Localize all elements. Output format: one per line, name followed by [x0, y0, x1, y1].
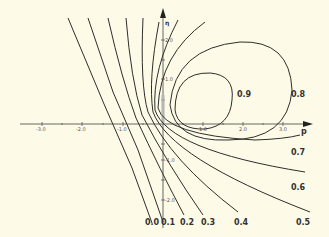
x-tick-label: -1.0 [117, 126, 127, 132]
contour-label: 0.8 [291, 90, 306, 99]
contour-0.4 [142, 18, 238, 212]
x-axis-label: p [301, 127, 307, 136]
contour-0.5 [151, 22, 310, 212]
contour-curves [68, 18, 310, 223]
contour-label: 0.5 [296, 218, 311, 227]
axis-shading [161, 95, 165, 124]
contour-0.9 [175, 73, 232, 129]
contour-label: 0.7 [291, 148, 305, 157]
contour-label: 0.4 [234, 218, 249, 227]
contour-label: 0.3 [201, 218, 215, 227]
contour-label: 0.1 [161, 218, 176, 227]
x-tick-label: -2.0 [76, 126, 86, 132]
contour-0.7 [158, 22, 300, 140]
y-tick-label: -2.0 [165, 197, 175, 203]
x-tick-label: 3.0 [279, 126, 287, 132]
contour-0.8 [170, 42, 292, 140]
y-axis-arrow-icon [160, 8, 166, 18]
y-tick-label: 1.0 [165, 76, 173, 82]
x-tick-label: 2.0 [239, 126, 247, 132]
contour-0.0 [68, 18, 152, 223]
contour-0.6 [155, 20, 305, 172]
contour-label: 0.0 [145, 218, 160, 227]
y-axis-label: η [165, 19, 169, 27]
contour-chart: -3.0 -2.0 -1.0 1.0 2.0 3.0 2.0 1.0 -1.0 … [0, 0, 329, 237]
x-tick-label: -3.0 [36, 126, 46, 132]
contour-label: 0.6 [291, 183, 306, 192]
contour-label: 0.2 [180, 218, 194, 227]
contour-label: 0.9 [237, 90, 252, 99]
